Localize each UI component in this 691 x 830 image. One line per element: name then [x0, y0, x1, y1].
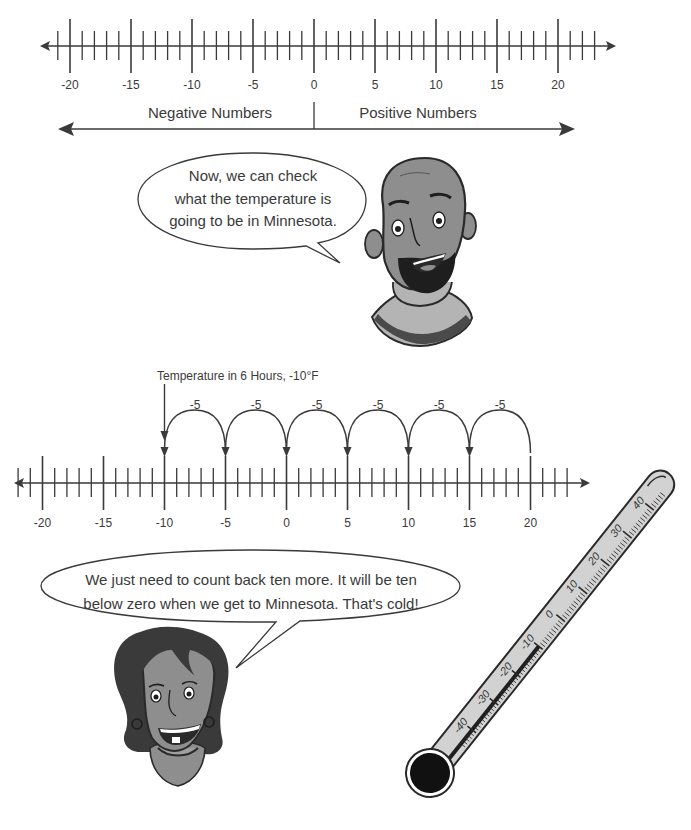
thermometer: -40-30-20-10010203040	[0, 0, 691, 830]
